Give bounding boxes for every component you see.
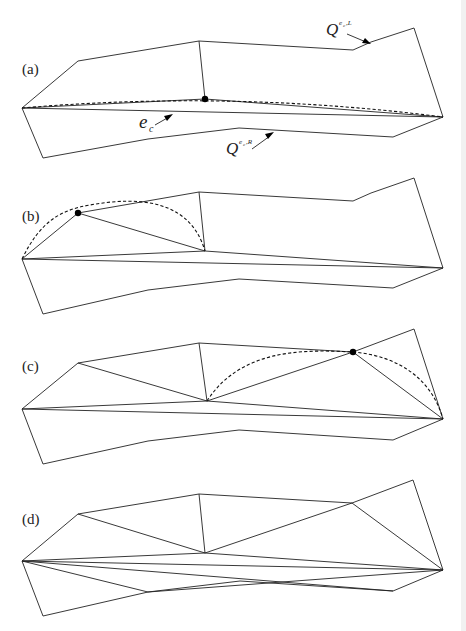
panel-label-b: (b) (22, 208, 40, 225)
interior-edge (199, 494, 205, 553)
svg-text:e: e (339, 19, 342, 27)
interior-edge (22, 99, 205, 108)
arrow-upper (347, 34, 366, 42)
panel-label-c: (c) (22, 358, 39, 375)
interior-edge (22, 401, 207, 409)
label-ec: e c (139, 111, 154, 134)
upper-polygon (22, 480, 443, 570)
lower-polygon (22, 561, 443, 616)
interior-edge (199, 192, 205, 251)
selected-vertex (350, 349, 356, 355)
upper-polygon (22, 329, 443, 419)
circumcircle-arc (22, 201, 205, 259)
arrow-lower (252, 136, 270, 149)
panel-d: (d) (22, 480, 443, 616)
panel-a: (a) Q e c ,L e c Q e (22, 19, 443, 158)
panel-label-d: (d) (22, 511, 40, 528)
svg-text:,L: ,L (346, 19, 352, 27)
upper-polygon (22, 178, 443, 268)
triangulation-figure: (a) Q e c ,L e c Q e (0, 0, 466, 631)
selected-vertex (75, 210, 81, 216)
svg-text:,R: ,R (246, 138, 253, 146)
panel-c: (c) (22, 329, 443, 464)
lower-polygon (22, 259, 443, 314)
label-q-upper: Q e c ,L (326, 19, 352, 39)
label-q-lower: Q e c ,R (226, 138, 253, 158)
interior-edge (352, 503, 443, 570)
arrow-head-icon (265, 132, 274, 139)
interior-edge (353, 352, 443, 419)
interior-edge (22, 553, 205, 561)
interior-edge (205, 503, 352, 553)
panel-b: (b) (22, 178, 443, 314)
interior-edge (199, 41, 205, 99)
interior-edge (199, 343, 207, 401)
selected-vertex (202, 96, 208, 102)
interior-edge (22, 561, 393, 591)
arrow-head-icon (164, 114, 173, 121)
svg-text:e: e (239, 138, 242, 146)
svg-text:Q: Q (226, 139, 238, 158)
arrow-head-icon (362, 38, 371, 44)
svg-text:c: c (149, 123, 154, 134)
svg-text:Q: Q (326, 20, 338, 39)
svg-text:e: e (139, 111, 147, 132)
panel-label-a: (a) (22, 61, 39, 78)
upper-polygon (22, 28, 443, 117)
interior-edge (22, 251, 205, 259)
interior-edge (78, 363, 207, 401)
interior-edge (78, 514, 205, 553)
